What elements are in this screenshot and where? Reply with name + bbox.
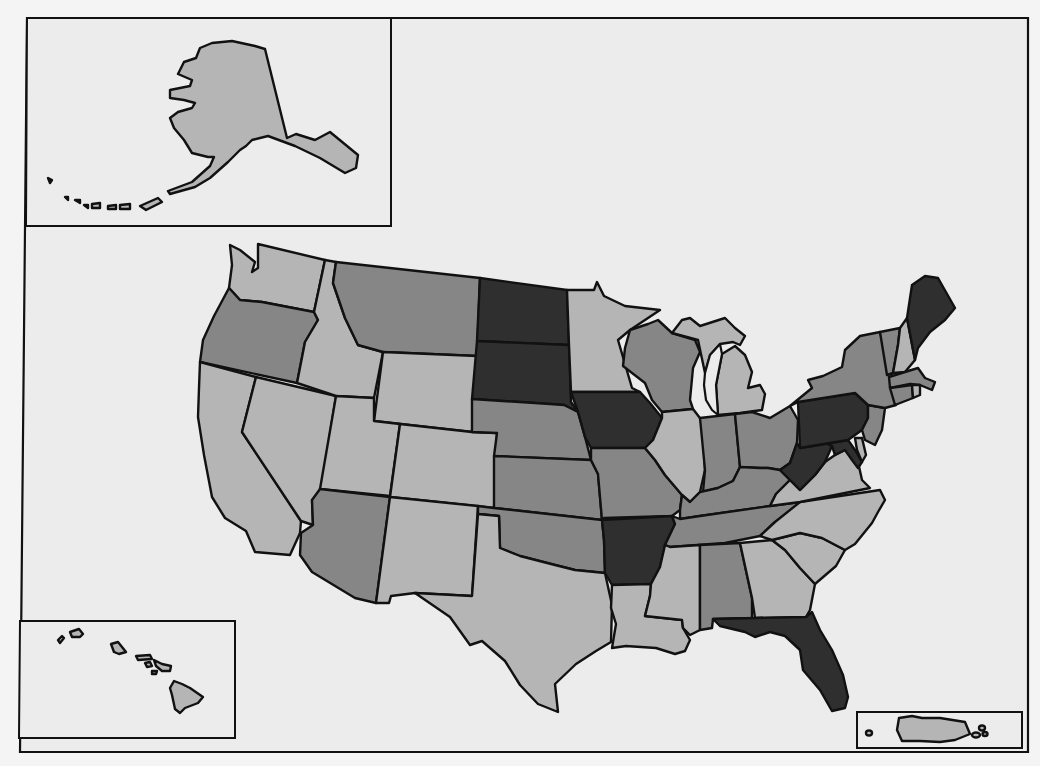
puerto-rico-inset (857, 712, 1022, 748)
state-ohio[interactable] (735, 406, 798, 470)
map-canvas (0, 0, 1040, 766)
hawaii-inset-frame (19, 621, 235, 738)
state-north-dakota[interactable] (477, 278, 569, 345)
hawaii-inset (19, 621, 235, 738)
us-choropleth-map (0, 0, 1040, 766)
state-new-mexico[interactable] (376, 497, 478, 603)
state-wyoming[interactable] (374, 352, 477, 432)
alaska-inset (26, 18, 391, 226)
state-colorado[interactable] (390, 424, 497, 508)
state-rhode-island[interactable] (912, 385, 920, 398)
